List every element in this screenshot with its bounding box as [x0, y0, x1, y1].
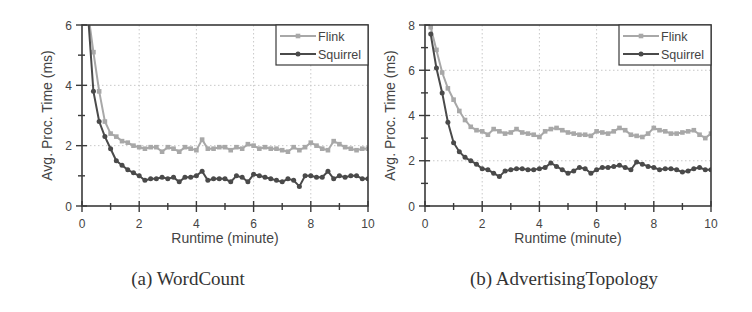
data-point — [166, 145, 171, 150]
data-point — [525, 167, 530, 172]
data-point — [154, 145, 159, 150]
data-point — [108, 146, 113, 151]
data-point — [97, 89, 102, 94]
chart-wordcount-svg: 02468100246Runtime (minute)Avg. Proc. Ti… — [0, 0, 376, 312]
data-point — [457, 109, 462, 114]
data-point — [543, 165, 548, 170]
data-point — [583, 132, 588, 137]
data-point — [445, 120, 450, 125]
data-point — [629, 132, 634, 137]
data-point — [297, 148, 302, 153]
data-point — [663, 166, 668, 171]
data-point — [360, 176, 365, 181]
data-point — [646, 164, 651, 169]
data-point — [514, 127, 519, 132]
data-point — [566, 171, 571, 176]
data-point — [537, 135, 542, 140]
data-point — [537, 166, 542, 171]
data-point — [125, 167, 130, 172]
data-point — [177, 149, 182, 154]
data-point — [509, 130, 514, 135]
data-point — [686, 168, 691, 173]
data-point — [309, 140, 314, 145]
data-point — [343, 175, 348, 180]
data-point — [274, 146, 279, 151]
data-point — [571, 131, 576, 136]
data-point — [348, 173, 353, 178]
data-point — [165, 176, 170, 181]
data-point — [228, 148, 233, 153]
y-tick-label: 6 — [408, 64, 415, 78]
legend-label-squirrel: Squirrel — [318, 48, 361, 62]
data-point — [297, 184, 302, 189]
data-point — [354, 148, 359, 153]
data-point — [548, 161, 553, 166]
y-tick-label: 0 — [408, 200, 415, 214]
data-point — [485, 167, 490, 172]
x-tick-label: 4 — [536, 217, 543, 231]
data-point — [131, 143, 136, 148]
data-point — [228, 179, 233, 184]
x-tick-label: 6 — [593, 217, 600, 231]
data-point — [434, 48, 439, 53]
data-point — [285, 176, 290, 181]
data-point — [234, 145, 239, 150]
data-point — [223, 176, 228, 181]
data-point — [589, 134, 594, 139]
data-point — [566, 130, 571, 135]
data-point — [257, 146, 262, 151]
data-point — [434, 65, 439, 70]
data-point — [691, 166, 696, 171]
data-point — [474, 128, 479, 133]
data-point — [600, 165, 605, 170]
chart-advertising-topology: 024681002468Runtime (minute)Avg. Proc. T… — [376, 0, 752, 312]
legend-marker — [639, 52, 644, 57]
data-point — [451, 140, 456, 145]
y-axis-title: Avg. Proc. Time (ms) — [382, 50, 398, 180]
data-point — [440, 70, 445, 75]
data-point — [680, 170, 685, 175]
data-point — [268, 176, 273, 181]
legend-label-squirrel: Squirrel — [661, 48, 704, 62]
data-point — [354, 173, 359, 178]
data-point — [360, 146, 365, 151]
data-point — [206, 146, 211, 151]
data-point — [280, 179, 285, 184]
data-point — [142, 178, 147, 183]
data-point — [160, 175, 165, 180]
data-point — [148, 176, 153, 181]
data-point — [177, 179, 182, 184]
x-tick-label: 10 — [704, 217, 718, 231]
data-point — [154, 176, 159, 181]
data-point — [640, 135, 645, 140]
data-point — [468, 158, 473, 163]
data-point — [97, 119, 102, 124]
data-point — [526, 131, 531, 136]
data-point — [211, 146, 216, 151]
data-point — [291, 178, 296, 183]
data-point — [451, 97, 456, 102]
data-point — [457, 149, 462, 154]
data-point — [531, 167, 536, 172]
data-point — [594, 129, 599, 134]
data-point — [560, 128, 565, 133]
x-axis-title: Runtime (minute) — [171, 230, 278, 246]
data-point — [349, 146, 354, 151]
data-point — [697, 165, 702, 170]
data-point — [606, 165, 611, 170]
data-point — [183, 145, 188, 150]
data-point — [697, 132, 702, 137]
y-tick-label: 6 — [65, 19, 72, 33]
data-point — [571, 168, 576, 173]
data-point — [703, 167, 708, 172]
data-point — [263, 145, 268, 150]
data-point — [182, 175, 187, 180]
data-point — [211, 176, 216, 181]
data-point — [274, 178, 279, 183]
data-point — [194, 148, 199, 153]
data-point — [314, 143, 319, 148]
data-point — [577, 132, 582, 137]
data-point — [125, 140, 130, 145]
x-tick-label: 6 — [250, 217, 257, 231]
data-point — [217, 176, 222, 181]
